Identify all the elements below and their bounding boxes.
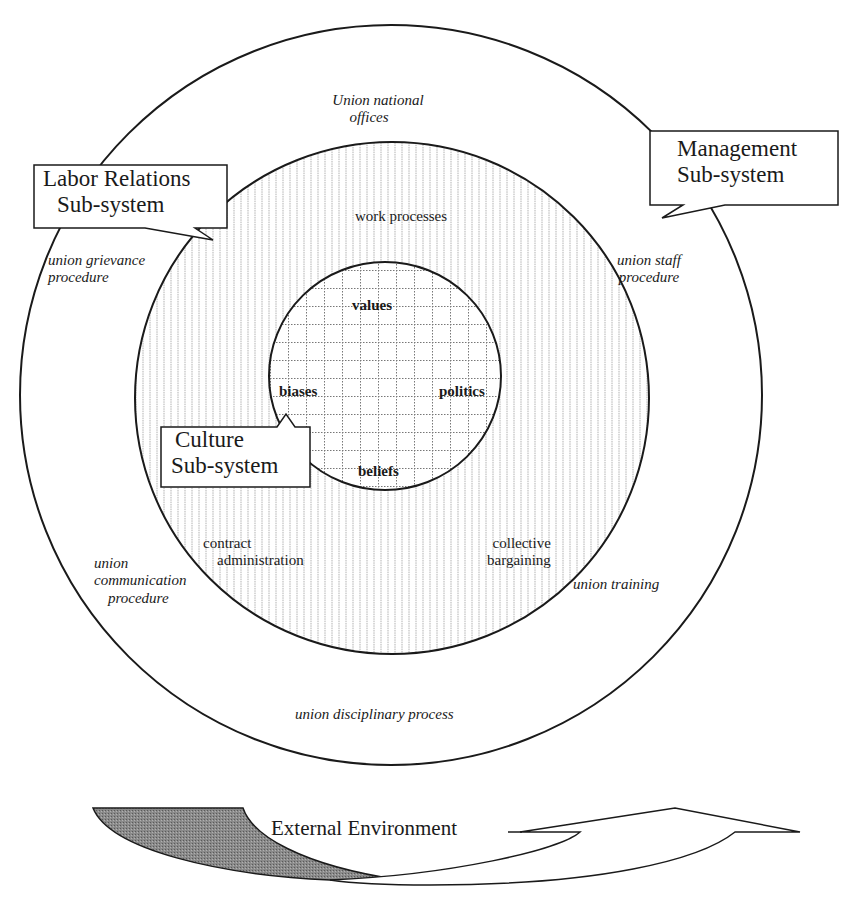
callout-line: Culture [171, 427, 278, 453]
label-union-training: union training [573, 576, 659, 593]
label-line: offices [318, 109, 438, 126]
label-union-communication-procedure: union communication procedure [94, 555, 186, 607]
label-beliefs: beliefs [358, 463, 399, 480]
label-line: procedure [94, 590, 186, 607]
callout-line: Management [677, 136, 797, 162]
label-line: collective [487, 535, 551, 552]
label-biases: biases [279, 383, 317, 400]
label-external-environment: External Environment [271, 816, 457, 841]
label-collective-bargaining: collective bargaining [487, 535, 551, 570]
callout-line: Sub-system [43, 192, 191, 218]
label-politics: politics [439, 383, 485, 400]
label-line: union [94, 555, 186, 572]
label-union-staff-procedure: union staff procedure [604, 252, 694, 287]
callout-line: Labor Relations [43, 166, 191, 192]
label-line: union grievance [48, 252, 145, 269]
label-line: bargaining [487, 552, 551, 569]
callout-management-subsystem: Management Sub-system [677, 136, 797, 189]
callout-line: Sub-system [677, 162, 797, 188]
label-line: communication [94, 572, 186, 589]
label-line: administration [203, 552, 304, 569]
callout-line: Sub-system [171, 453, 278, 479]
label-union-national-offices: Union national offices [318, 92, 438, 127]
label-values: values [352, 297, 392, 314]
label-work-processes: work processes [355, 208, 447, 225]
callout-labor-relations-subsystem: Labor Relations Sub-system [43, 166, 191, 219]
label-contract-administration: contract administration [203, 535, 304, 570]
label-line: procedure [48, 269, 145, 286]
label-line: union staff [604, 252, 694, 269]
label-union-disciplinary-process: union disciplinary process [295, 706, 454, 723]
callout-culture-subsystem: Culture Sub-system [171, 427, 278, 480]
label-line: procedure [604, 269, 694, 286]
label-union-grievance-procedure: union grievance procedure [48, 252, 145, 287]
label-line: contract [203, 535, 304, 552]
label-line: Union national [318, 92, 438, 109]
